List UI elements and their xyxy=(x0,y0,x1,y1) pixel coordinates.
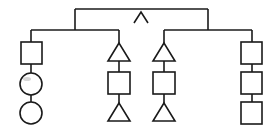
square-shape xyxy=(241,42,262,64)
square-shape xyxy=(21,42,42,64)
caret-icon xyxy=(134,12,148,23)
square-shape xyxy=(153,72,175,94)
square-shape xyxy=(241,102,262,124)
triangle-shape xyxy=(108,43,130,61)
column-1 xyxy=(20,42,42,124)
column-2 xyxy=(108,43,130,121)
tree-diagram xyxy=(0,0,279,138)
square-shape xyxy=(108,72,130,94)
left-group-connector xyxy=(31,30,119,43)
right-group-connector xyxy=(164,30,252,43)
column-4 xyxy=(241,42,262,124)
triangle-shape xyxy=(153,43,175,61)
square-shape xyxy=(241,72,262,94)
triangle-shape xyxy=(108,103,130,121)
column-3 xyxy=(153,43,175,121)
circle-shape xyxy=(20,102,42,124)
circle-shape xyxy=(20,73,42,95)
triangle-shape xyxy=(153,103,175,121)
